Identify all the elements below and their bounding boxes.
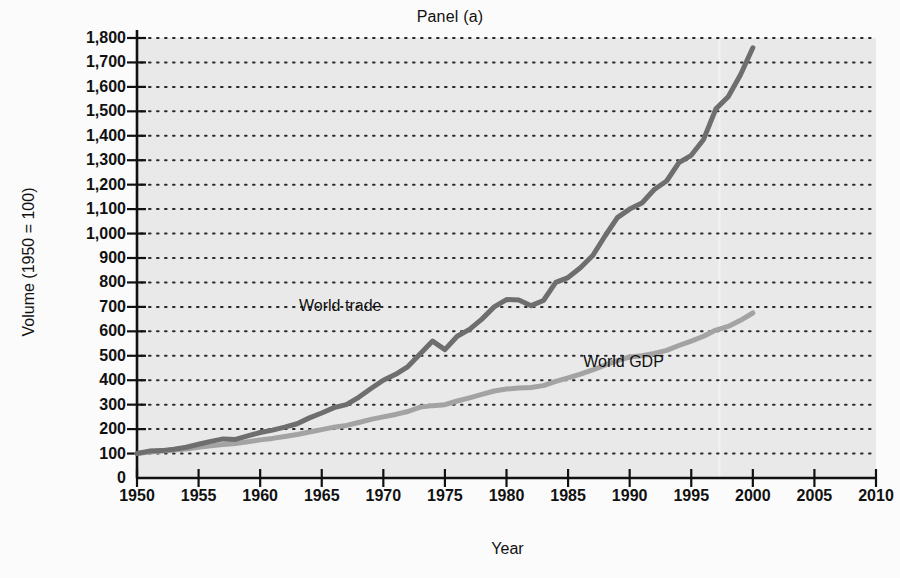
series-label-world-trade: World trade: [299, 297, 381, 315]
x-tick-label: 2005: [779, 487, 849, 505]
x-tick-label: 2000: [718, 487, 788, 505]
x-tick-label: 1985: [533, 487, 603, 505]
chart-root: Panel (a) Volume (1950 = 100) 0100200300…: [0, 0, 900, 578]
x-tick-label: 1975: [410, 487, 480, 505]
x-tick-label: 2010: [841, 487, 900, 505]
x-tick-label: 1970: [348, 487, 418, 505]
x-tick-label: 1960: [225, 487, 295, 505]
x-tick-label: 1990: [595, 487, 665, 505]
x-axis-tick-labels: 1950195519601965197019751980198519901995…: [0, 0, 900, 578]
x-tick-label: 1980: [472, 487, 542, 505]
x-tick-label: 1965: [287, 487, 357, 505]
x-axis-title: Year: [140, 540, 875, 558]
x-tick-label: 1950: [102, 487, 172, 505]
series-label-world-gdp: World GDP: [583, 353, 664, 371]
x-tick-label: 1955: [164, 487, 234, 505]
x-tick-label: 1995: [656, 487, 726, 505]
